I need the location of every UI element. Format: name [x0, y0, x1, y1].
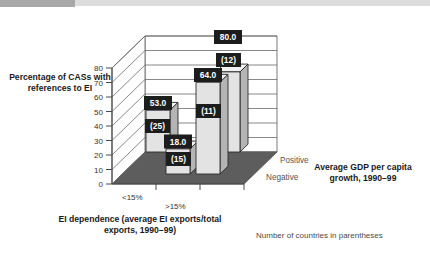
- value-text-53: 53.0: [150, 98, 167, 108]
- count-text-25: (25): [150, 121, 165, 131]
- value-text-18: 18.0: [170, 137, 187, 147]
- count-text-15: (15): [171, 154, 186, 164]
- y-tick-0: 0: [99, 180, 104, 189]
- count-label-lt15-positive: (25): [145, 119, 170, 133]
- x-tick-gt15: >15%: [165, 202, 186, 211]
- value-label-lt15-negative: 18.0: [164, 135, 192, 149]
- value-label-gt15-positive: 80.0: [214, 30, 242, 44]
- y-tick-60: 60: [94, 93, 103, 102]
- value-text-64: 64.0: [200, 70, 217, 80]
- x-tick-lt15: <15%: [122, 193, 143, 202]
- value-label-lt15-positive: 53.0: [144, 96, 172, 110]
- depth-label-negative: Negative: [266, 173, 299, 182]
- x-axis: [112, 184, 244, 190]
- z-axis-title: Average GDP per capita growth, 1990–99: [302, 162, 424, 184]
- y-tick-40: 40: [94, 122, 103, 131]
- y-tick-20: 20: [94, 151, 103, 160]
- chart-footnote: Number of countries in parentheses: [256, 231, 428, 240]
- y-tick-30: 30: [94, 137, 103, 146]
- bar-gt15-negative[interactable]: [196, 74, 228, 174]
- chart-page: 0 10 20 30 40 50 60 70 80: [0, 0, 430, 266]
- count-label-gt15-positive: (12): [216, 53, 241, 67]
- y-axis-title: Percentage of CASs with references to EI: [6, 72, 114, 94]
- count-text-12: (11): [201, 106, 216, 116]
- count-label-gt15-negative: (11): [196, 104, 221, 118]
- count-label-lt15-negative: (15): [166, 152, 191, 166]
- y-tick-50: 50: [94, 108, 103, 117]
- value-text-80: 80.0: [220, 32, 237, 42]
- x-axis-title: EI dependence (average EI exports/total …: [52, 214, 228, 236]
- y-tick-10: 10: [94, 166, 103, 175]
- value-label-gt15-negative: 64.0: [194, 68, 222, 82]
- count-text-11: (12): [221, 55, 236, 65]
